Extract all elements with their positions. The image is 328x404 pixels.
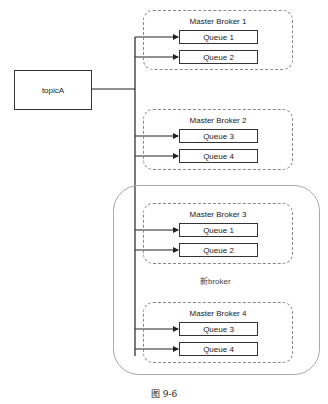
broker-title: Master Broker 1 (144, 17, 292, 26)
queue-label: Queue 4 (203, 345, 234, 354)
topic-box: topicA (14, 70, 92, 110)
queue-label: Queue 1 (203, 226, 234, 235)
queue-box: Queue 3 (179, 129, 258, 143)
queue-box: Queue 4 (179, 149, 258, 163)
queue-box: Queue 2 (179, 50, 258, 64)
queue-label: Queue 3 (203, 325, 234, 334)
queue-box: Queue 1 (179, 223, 258, 237)
queue-box: Queue 3 (179, 322, 258, 336)
queue-box: Queue 4 (179, 342, 258, 356)
new-broker-label: 新broker (200, 275, 231, 286)
queue-label: Queue 1 (203, 33, 234, 42)
queue-label: Queue 2 (203, 246, 234, 255)
queue-box: Queue 1 (179, 30, 258, 44)
broker-title: Master Broker 2 (144, 116, 292, 125)
topic-label: topicA (42, 86, 64, 95)
queue-label: Queue 2 (203, 53, 234, 62)
broker-title: Master Broker 4 (144, 309, 292, 318)
queue-label: Queue 4 (203, 152, 234, 161)
broker-title: Master Broker 3 (144, 210, 292, 219)
queue-label: Queue 3 (203, 132, 234, 141)
queue-box: Queue 2 (179, 243, 258, 257)
figure-caption: 图 9-6 (0, 387, 328, 400)
